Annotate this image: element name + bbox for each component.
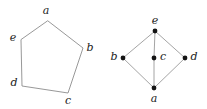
pentagon-vertex-label-c: c <box>65 94 71 107</box>
pentagon-vertex-label-b: b <box>86 41 93 54</box>
lattice-panel: e b c d a <box>110 14 197 105</box>
lattice-node-e <box>153 29 158 34</box>
pentagon-vertex-label-d: d <box>10 76 17 89</box>
lattice-vertex-label-a: a <box>151 92 158 105</box>
lattice-node-b <box>121 56 126 61</box>
graph-figure-svg: a b c d e e b c d a <box>0 0 207 109</box>
lattice-node-a <box>152 86 157 91</box>
pentagon-panel: a b c d e <box>10 4 94 107</box>
pentagon-face <box>21 21 83 93</box>
figure-container: a b c d e e b c d a <box>0 0 207 109</box>
lattice-vertex-label-c: c <box>160 50 166 63</box>
lattice-vertex-label-b: b <box>110 50 117 63</box>
lattice-node-d <box>183 56 188 61</box>
pentagon-vertex-label-e: e <box>10 31 17 44</box>
pentagon-vertex-label-a: a <box>43 4 50 17</box>
lattice-vertex-label-e: e <box>152 14 159 27</box>
lattice-node-c <box>152 56 157 61</box>
lattice-vertex-label-d: d <box>190 50 197 63</box>
